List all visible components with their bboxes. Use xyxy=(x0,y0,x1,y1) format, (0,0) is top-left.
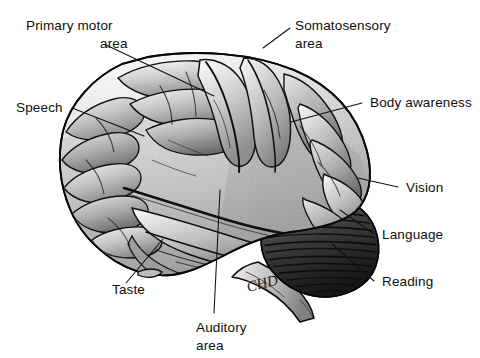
brain-diagram-figure: CHD Primary motor area Somatosensory are… xyxy=(0,0,480,358)
label-reading: Reading xyxy=(382,274,433,289)
label-somatosensory-area-line1: Somatosensory xyxy=(295,18,391,33)
label-auditory-area-line1: Auditory xyxy=(196,320,247,335)
label-auditory-area-line2: area xyxy=(196,338,224,353)
label-vision: Vision xyxy=(406,180,443,195)
label-body-awareness: Body awareness xyxy=(370,95,472,110)
label-somatosensory-area-line2: area xyxy=(295,36,323,51)
brain-illustration: CHD Primary motor area Somatosensory are… xyxy=(0,0,480,358)
label-primary-motor-area-line2: area xyxy=(100,36,128,51)
label-primary-motor-area-line1: Primary motor xyxy=(26,18,113,33)
label-taste: Taste xyxy=(112,282,145,297)
label-speech: Speech xyxy=(16,100,63,115)
label-language: Language xyxy=(382,227,443,242)
